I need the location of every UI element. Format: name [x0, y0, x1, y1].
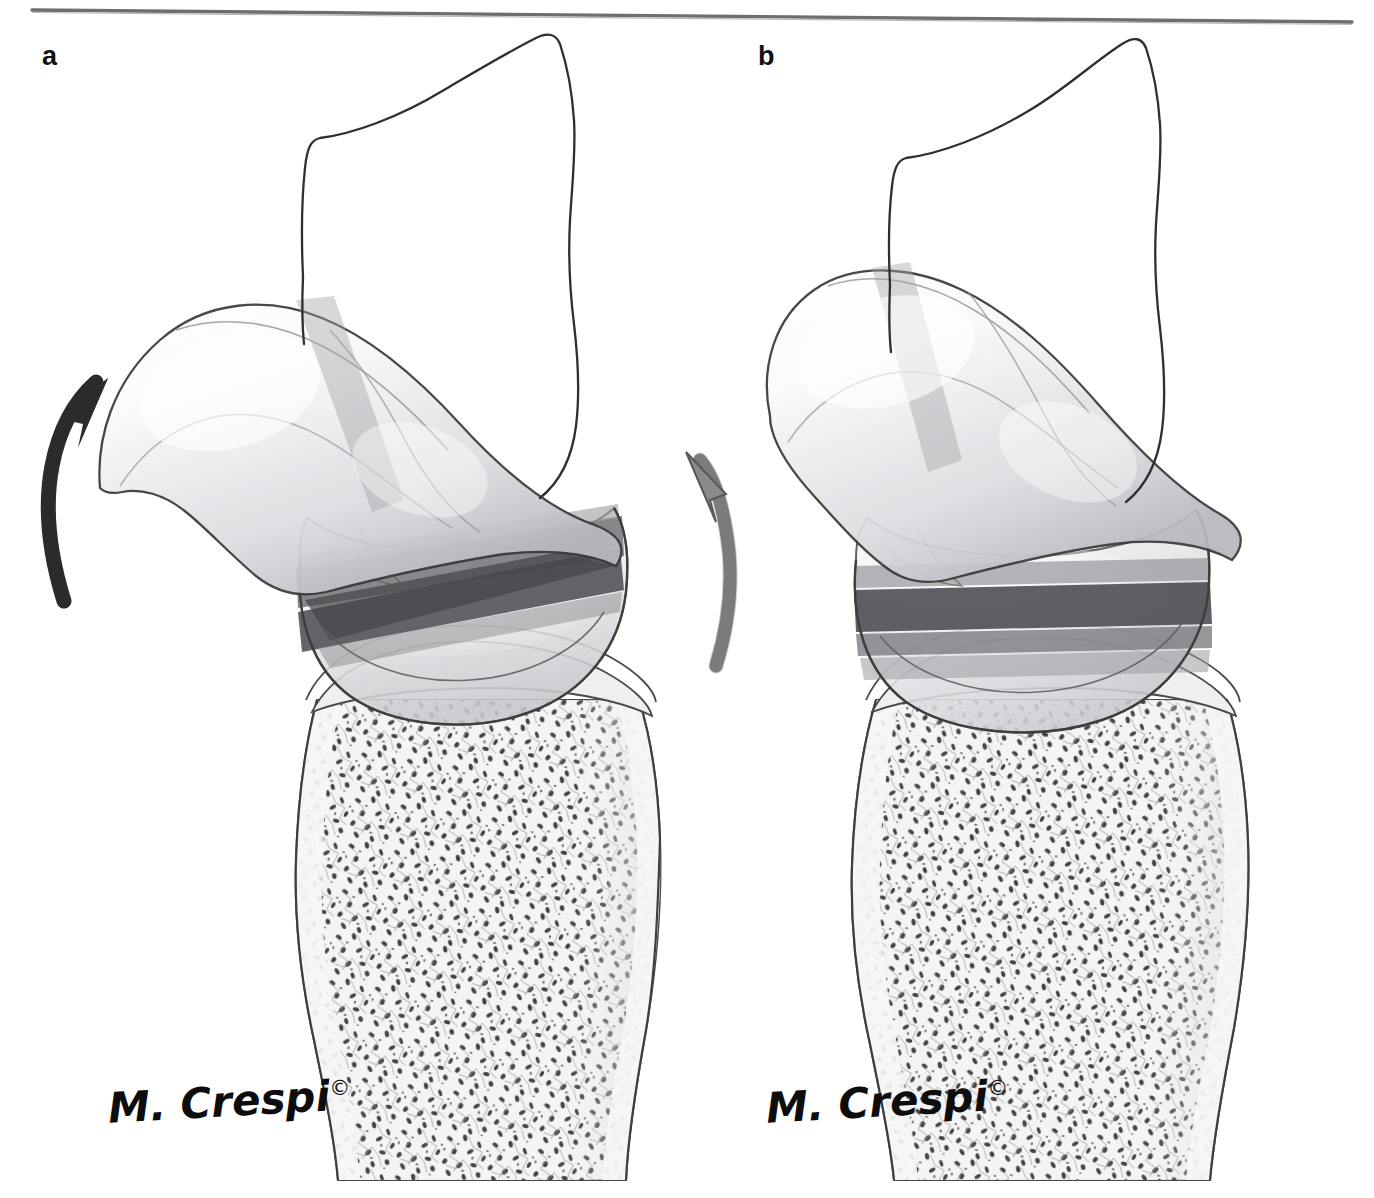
anatomical-illustration-svg — [0, 0, 1374, 1198]
panel-label-b: b — [758, 43, 775, 70]
panel-label-a: a — [42, 43, 57, 70]
figure-container: a b M. Crespi© M. Crespi© — [0, 0, 1374, 1198]
copyright-icon-b: © — [987, 1075, 1009, 1100]
copyright-icon-a: © — [329, 1075, 351, 1100]
band-parallel-dark — [854, 582, 1212, 632]
